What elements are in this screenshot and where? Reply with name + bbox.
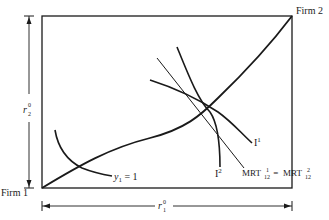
arrow-down-icon [27,180,32,187]
firm1-label: Firm 1 [1,187,28,198]
mrt-right-sub: 12 [305,174,311,180]
isoquant-I2 [177,47,220,167]
dim-horizontal-sup: 0 [163,199,166,205]
contract-curve [42,16,292,188]
isoquant-I2-label: I2 [215,167,222,179]
dim-horizontal-label: r [158,200,162,211]
arrow-up-icon [27,17,32,24]
edgeworth-box [42,16,292,188]
arrow-right-icon [284,204,291,209]
mrt-equality-label: MRT [242,168,261,178]
isoquant-y1-label: y1 = 1 [113,171,138,184]
mrt-right-sup: 2 [307,167,310,173]
edgeworth-box-diagram: Firm 1 Firm 2 y1 = 1 I1 I2 MRT 1 12 = MR… [0,0,329,220]
arrow-left-icon [43,204,50,209]
isoquant-y1 [55,130,112,176]
firm2-label: Firm 2 [296,5,323,16]
mrt-left-sup: 1 [266,167,269,173]
tangent-mrt-line [157,58,244,168]
dim-vertical-label: r [23,104,27,115]
isoquant-I1-label: I1 [254,136,261,148]
mrt-equals: = [271,168,281,178]
dim-vertical-sup: 0 [28,102,31,108]
dim-horizontal-sub: 1 [163,207,166,213]
mrt-left-sub: 12 [264,174,270,180]
mrt-right: MRT [283,168,302,178]
dim-vertical-sub: 2 [28,111,31,117]
